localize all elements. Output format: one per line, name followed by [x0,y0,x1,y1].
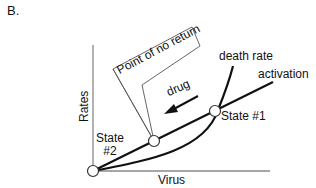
death-rate-label: death rate [219,50,273,63]
y-axis-label: Rates [78,91,91,122]
state2-marker [149,136,160,147]
activation-label: activation [258,68,309,81]
state2-label-line2: #2 [96,145,124,158]
diagram-canvas [0,0,316,188]
state2-label: State #2 [96,132,124,158]
state1-label: State #1 [221,110,266,123]
drug-arrow-head [164,104,178,114]
origin-state-marker [88,166,99,177]
panel-label: B. [7,4,19,17]
state1-marker [210,106,221,117]
x-axis-label: Virus [158,174,185,187]
